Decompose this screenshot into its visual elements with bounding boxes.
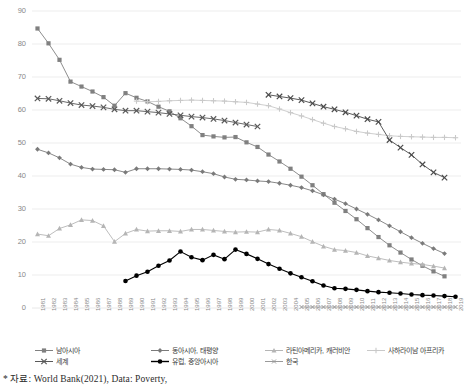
legend-item[interactable]: 동아시아, 태평양 bbox=[150, 346, 218, 355]
data-point-marker bbox=[200, 258, 205, 263]
data-point-marker bbox=[46, 151, 51, 156]
data-point-marker bbox=[420, 134, 425, 139]
data-point-marker bbox=[101, 95, 105, 99]
data-point-marker bbox=[288, 110, 293, 115]
data-point-marker bbox=[288, 167, 292, 171]
data-point-marker bbox=[431, 170, 436, 175]
data-point-marker bbox=[266, 152, 270, 156]
legend-item-label: 동아시아, 태평양 bbox=[172, 346, 218, 355]
data-point-marker bbox=[255, 101, 260, 106]
data-point-marker bbox=[442, 135, 447, 140]
data-point-marker bbox=[90, 89, 94, 93]
x-axis-tick-label: 1981 bbox=[40, 298, 46, 311]
legend-marker-icon bbox=[34, 357, 54, 366]
data-point-marker bbox=[178, 249, 183, 254]
legend-marker-icon bbox=[150, 357, 170, 366]
data-point-marker bbox=[222, 257, 227, 262]
data-point-marker bbox=[158, 348, 163, 353]
data-point-marker bbox=[112, 167, 117, 172]
data-point-marker bbox=[90, 167, 95, 172]
gridlines bbox=[32, 11, 461, 308]
data-point-marker bbox=[442, 274, 446, 278]
legend-item-label: 남아시아 bbox=[56, 346, 80, 355]
legend-item[interactable]: 남아시아 bbox=[34, 346, 80, 355]
data-point-marker bbox=[288, 271, 293, 276]
data-point-marker bbox=[134, 273, 139, 278]
x-axis-tick-label: 1991 bbox=[150, 298, 156, 311]
legend-item[interactable]: 라틴아메리카, 캐러비안 bbox=[264, 346, 350, 355]
data-point-marker bbox=[266, 262, 271, 267]
data-point-marker bbox=[354, 217, 358, 221]
chart-legend: 남아시아동아시아, 태평양라틴아메리카, 캐러비안사하라이남 아프리카세계유럽,… bbox=[0, 345, 464, 369]
data-point-marker bbox=[299, 175, 303, 179]
y-axis-tick-label: 90 bbox=[2, 7, 26, 15]
data-point-marker bbox=[321, 121, 326, 126]
x-axis-tick-label: 2012 bbox=[381, 298, 387, 311]
data-point-marker bbox=[277, 106, 282, 111]
chart-series bbox=[266, 92, 447, 180]
series-line bbox=[38, 220, 445, 268]
x-axis-tick-label: 2001 bbox=[260, 298, 266, 311]
y-axis-tick-label: 30 bbox=[2, 205, 26, 213]
data-point-marker bbox=[376, 290, 381, 295]
legend-item[interactable]: 세계 bbox=[34, 357, 68, 366]
data-point-marker bbox=[398, 134, 403, 139]
chart-series bbox=[35, 147, 447, 256]
data-point-marker bbox=[68, 222, 73, 227]
data-point-marker bbox=[409, 134, 414, 139]
data-point-marker bbox=[365, 130, 370, 135]
data-point-marker bbox=[211, 98, 216, 103]
legend-item-label: 유럽, 중앙아시아 bbox=[172, 357, 218, 366]
data-point-marker bbox=[299, 185, 304, 190]
data-point-marker bbox=[277, 181, 282, 186]
legend-item[interactable]: 사하라이남 아프리카 bbox=[366, 346, 444, 355]
footnote-text: * 자료: World Bank(2021), Data: Poverty, bbox=[3, 371, 167, 385]
data-point-marker bbox=[244, 100, 249, 105]
data-point-marker bbox=[332, 286, 337, 291]
x-axis-tick-label: 1998 bbox=[227, 298, 233, 311]
data-point-marker bbox=[189, 124, 193, 128]
chart-plot-area: 0102030405060708090 19811982198319841985… bbox=[0, 0, 464, 345]
y-axis-tick-label: 40 bbox=[2, 172, 26, 180]
data-point-marker bbox=[420, 162, 425, 167]
x-axis-tick-label: 2010 bbox=[359, 298, 365, 311]
data-point-marker bbox=[123, 91, 127, 95]
data-point-marker bbox=[255, 145, 259, 149]
legend-marker-icon bbox=[366, 346, 386, 355]
data-point-marker bbox=[233, 247, 238, 252]
data-point-marker bbox=[145, 269, 150, 274]
data-point-marker bbox=[42, 348, 46, 352]
data-point-marker bbox=[343, 209, 347, 213]
data-point-marker bbox=[409, 235, 414, 240]
data-point-marker bbox=[310, 117, 315, 122]
data-point-marker bbox=[123, 170, 128, 175]
data-point-marker bbox=[123, 279, 128, 284]
data-point-marker bbox=[431, 269, 435, 273]
data-point-marker bbox=[398, 291, 403, 296]
data-point-marker bbox=[200, 133, 204, 137]
x-axis-tick-label: 1982 bbox=[51, 298, 57, 311]
legend-item-label: 세계 bbox=[56, 357, 68, 366]
x-axis-tick-label: 1999 bbox=[238, 298, 244, 311]
series-line bbox=[137, 100, 456, 138]
x-axis-tick-label: 1993 bbox=[172, 298, 178, 311]
data-point-marker bbox=[200, 169, 205, 174]
data-point-marker bbox=[35, 147, 40, 152]
x-axis-tick-label: 1997 bbox=[216, 298, 222, 311]
data-point-marker bbox=[373, 348, 378, 353]
data-point-marker bbox=[398, 250, 402, 254]
legend-item-label: 사하라이남 아프리카 bbox=[388, 346, 444, 355]
data-point-marker bbox=[277, 159, 281, 163]
x-axis-tick-label: 2007 bbox=[326, 298, 332, 311]
legend-item[interactable]: 한국 bbox=[264, 357, 298, 366]
data-point-marker bbox=[156, 99, 161, 104]
data-point-marker bbox=[233, 99, 238, 104]
data-point-marker bbox=[343, 201, 348, 206]
data-point-marker bbox=[167, 98, 172, 103]
data-point-marker bbox=[310, 188, 315, 193]
x-axis-tick-label: 2016 bbox=[425, 298, 431, 311]
legend-item[interactable]: 유럽, 중앙아시아 bbox=[150, 357, 218, 366]
legend-marker-icon bbox=[34, 346, 54, 355]
data-point-marker bbox=[310, 239, 315, 244]
data-point-marker bbox=[79, 84, 83, 88]
